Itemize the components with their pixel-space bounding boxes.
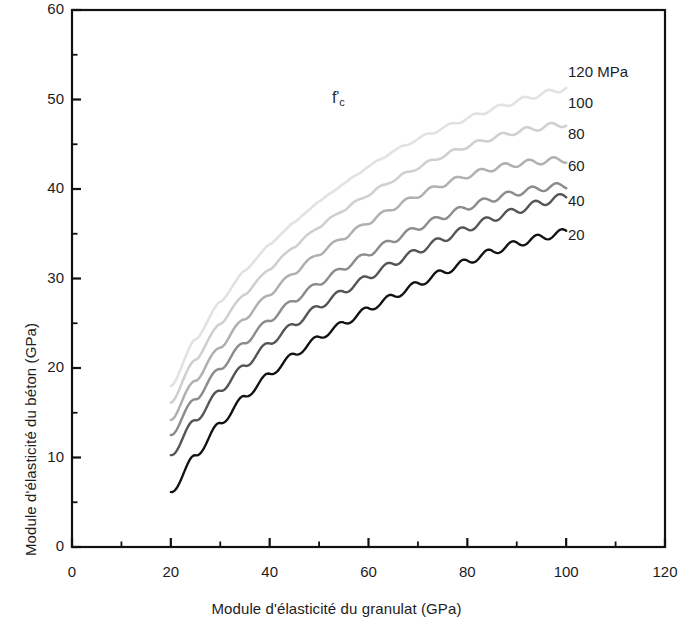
series-layer	[171, 88, 566, 492]
x-tick-label-0: 0	[49, 563, 95, 580]
x-tick-label-20: 20	[148, 563, 194, 580]
legend-label-120: 120 MPa	[568, 63, 628, 80]
y-tick-label-40: 40	[18, 179, 64, 196]
legend-label-100: 100	[568, 94, 593, 111]
y-tick-label-60: 60	[18, 0, 64, 17]
x-tick-label-100: 100	[543, 563, 589, 580]
x-axis-title: Module d'élasticité du granulat (GPa)	[0, 600, 673, 617]
x-tick-label-40: 40	[247, 563, 293, 580]
x-tick-label-60: 60	[346, 563, 392, 580]
legend-label-80: 80	[568, 125, 585, 142]
legend-label-20: 20	[568, 226, 585, 243]
y-axis-title: Module d'élasticité du béton (GPa)	[22, 323, 39, 556]
legend-label-60: 60	[568, 157, 585, 174]
y-tick-label-30: 30	[18, 269, 64, 286]
x-tick-label-80: 80	[444, 563, 490, 580]
fc-annotation: f'c	[332, 88, 345, 108]
fc-subscript: c	[339, 96, 345, 108]
x-tick-label-120: 120	[642, 563, 682, 580]
legend-label-40: 40	[568, 192, 585, 209]
y-tick-label-50: 50	[18, 90, 64, 107]
